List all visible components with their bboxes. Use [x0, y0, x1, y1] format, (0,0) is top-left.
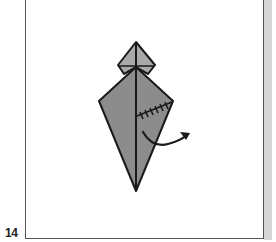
origami-diagram [0, 0, 276, 242]
